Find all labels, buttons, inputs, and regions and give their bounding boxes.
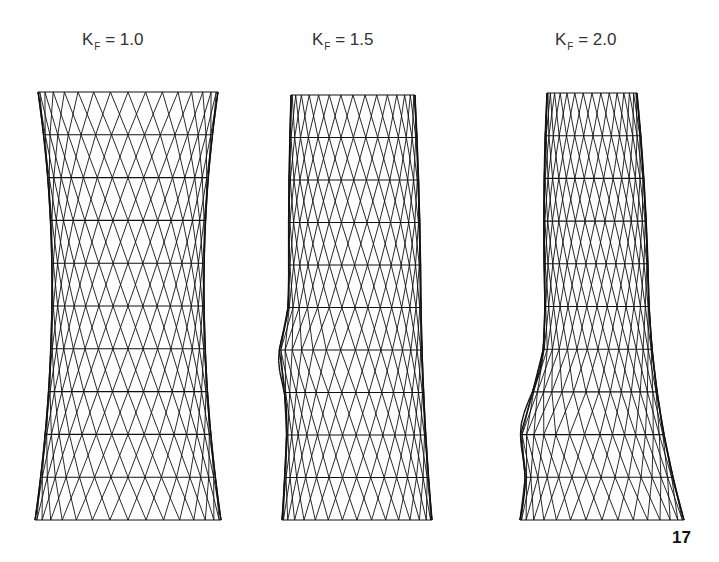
tower-wireframe-kf-1-0 — [35, 92, 221, 520]
page-number: 17 — [672, 528, 691, 548]
tower-wireframes — [0, 0, 719, 562]
tower-wireframe-kf-1-5 — [279, 95, 432, 520]
tower-wireframe-kf-2-0 — [520, 93, 684, 520]
